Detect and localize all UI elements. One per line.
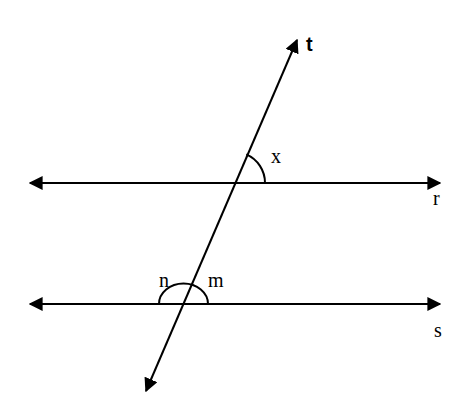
label-x: x (271, 145, 281, 167)
label-t: t (306, 33, 313, 55)
label-s: s (434, 319, 442, 341)
parallel-lines-diagram: t x r n m s (0, 0, 463, 397)
label-r: r (433, 187, 440, 209)
label-n: n (159, 269, 169, 291)
label-m: m (208, 269, 224, 291)
angle-x-arc (246, 154, 265, 183)
transversal-t (146, 40, 297, 391)
